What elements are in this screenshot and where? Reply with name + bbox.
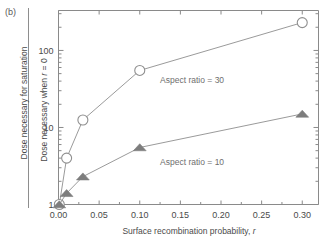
figure-panel-b: (b) Dose necessary for saturation Dose n… bbox=[0, 0, 329, 246]
data-series bbox=[53, 18, 309, 210]
x-tick-label: 0.05 bbox=[90, 210, 108, 220]
x-tick-label: 0.25 bbox=[253, 210, 271, 220]
y-tick-label: 1 bbox=[48, 200, 53, 210]
data-point-open-circle bbox=[62, 153, 72, 163]
x-tick-label: 0.20 bbox=[212, 210, 230, 220]
data-point-filled-triangle bbox=[296, 110, 309, 117]
series-annotation: Aspect ratio = 10 bbox=[160, 157, 224, 167]
data-point-open-circle bbox=[297, 18, 307, 28]
axis-tick-labels: 0.000.050.100.150.200.250.30110100 bbox=[38, 46, 311, 220]
x-tick-label: 0.00 bbox=[50, 210, 68, 220]
series-annotation: Aspect ratio = 30 bbox=[160, 75, 224, 85]
x-tick-label: 0.15 bbox=[172, 210, 190, 220]
series-aspect-ratio-30 bbox=[54, 18, 307, 210]
data-point-filled-triangle bbox=[133, 144, 146, 151]
series-line bbox=[59, 23, 302, 205]
y-tick-label: 100 bbox=[38, 46, 53, 56]
data-point-open-circle bbox=[135, 65, 145, 75]
x-tick-label: 0.30 bbox=[293, 210, 311, 220]
data-point-open-circle bbox=[78, 115, 88, 125]
plot-area: 0.000.050.100.150.200.250.30110100 Aspec… bbox=[0, 0, 329, 246]
data-point-filled-triangle bbox=[60, 190, 73, 197]
y-tick-label: 10 bbox=[43, 123, 53, 133]
series-annotations: Aspect ratio = 30Aspect ratio = 10 bbox=[160, 75, 224, 167]
x-tick-label: 0.10 bbox=[131, 210, 149, 220]
